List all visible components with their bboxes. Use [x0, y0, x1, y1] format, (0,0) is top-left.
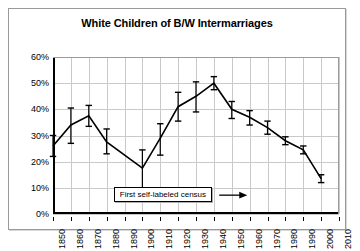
x-tick-label: 1980 — [289, 229, 299, 249]
x-tick-mark — [268, 217, 269, 221]
x-tick-mark — [196, 217, 197, 221]
x-tick-label: 1930 — [200, 229, 210, 249]
x-tick-mark — [178, 217, 179, 221]
y-tick-label: 20% — [31, 157, 49, 167]
x-tick-mark — [232, 217, 233, 221]
y-axis-labels: 0%10%20%30%40%50%60% — [9, 57, 49, 214]
y-tick-label: 40% — [31, 104, 49, 114]
y-tick-label: 10% — [31, 183, 49, 193]
x-tick-label: 1940 — [218, 229, 228, 249]
x-tick-label: 1850 — [57, 229, 67, 249]
x-tick-mark — [321, 217, 322, 221]
x-tick-label: 1870 — [93, 229, 103, 249]
y-tick-label: 30% — [31, 131, 49, 141]
y-tick-label: 0% — [36, 209, 49, 219]
chart-frame: White Children of B/W Intermarriages 0%1… — [8, 8, 346, 230]
x-tick-mark — [250, 217, 251, 221]
plot-area: First self-labeled census — [53, 57, 339, 214]
gridline-horizontal — [53, 214, 339, 215]
x-tick-label: 2010 — [343, 229, 353, 249]
x-tick-label: 1970 — [272, 229, 282, 249]
x-tick-mark — [160, 217, 161, 221]
x-tick-mark — [89, 217, 90, 221]
x-tick-mark — [214, 217, 215, 221]
y-tick-label: 60% — [31, 52, 49, 62]
x-tick-mark — [285, 217, 286, 221]
x-tick-mark — [142, 217, 143, 221]
x-tick-label: 1860 — [75, 229, 85, 249]
x-tick-label: 1880 — [111, 229, 121, 249]
x-tick-label: 1960 — [254, 229, 264, 249]
y-tick-label: 50% — [31, 78, 49, 88]
x-tick-label: 1900 — [146, 229, 156, 249]
x-tick-mark — [339, 217, 340, 221]
x-tick-label: 1890 — [129, 229, 139, 249]
x-tick-mark — [53, 217, 54, 221]
x-tick-mark — [107, 217, 108, 221]
x-tick-label: 1990 — [307, 229, 317, 249]
gridline-vertical — [339, 57, 340, 214]
x-tick-label: 1910 — [164, 229, 174, 249]
x-tick-label: 1920 — [182, 229, 192, 249]
x-axis-labels: 1850186018701880189019001910192019301940… — [53, 217, 339, 251]
x-tick-mark — [71, 217, 72, 221]
chart-title: White Children of B/W Intermarriages — [9, 17, 345, 29]
annotation-arrow-icon — [53, 57, 339, 214]
x-tick-label: 2000 — [325, 229, 335, 249]
x-tick-mark — [303, 217, 304, 221]
x-tick-mark — [125, 217, 126, 221]
x-tick-label: 1950 — [236, 229, 246, 249]
